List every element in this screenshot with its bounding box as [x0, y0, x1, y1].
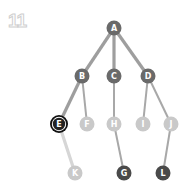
edge-a-b [82, 28, 114, 76]
edge-h-g [114, 124, 124, 173]
node-h[interactable]: H [107, 117, 122, 132]
node-f[interactable]: F [80, 117, 95, 132]
node-label: E [56, 120, 61, 129]
node-label: J [169, 120, 173, 129]
node-label: F [84, 120, 89, 129]
edge-a-d [114, 28, 148, 76]
node-b[interactable]: B [75, 69, 90, 84]
edges-layer [59, 28, 171, 173]
node-e[interactable]: E [50, 115, 68, 133]
node-label: A [111, 24, 118, 33]
node-label: D [145, 72, 152, 81]
node-k[interactable]: K [68, 166, 83, 181]
tree-diagram: ABCDEFHIJKGL [0, 0, 187, 189]
node-a[interactable]: A [107, 21, 122, 36]
node-d[interactable]: D [141, 69, 156, 84]
node-c[interactable]: C [107, 69, 122, 84]
node-label: G [121, 169, 128, 178]
node-g[interactable]: G [117, 166, 132, 181]
node-label: I [142, 120, 145, 129]
node-label: K [72, 169, 79, 178]
node-label: H [111, 120, 118, 129]
node-l[interactable]: L [156, 166, 171, 181]
node-j[interactable]: J [164, 117, 179, 132]
node-label: B [79, 72, 85, 81]
node-label: L [160, 169, 165, 178]
node-i[interactable]: I [136, 117, 151, 132]
node-label: C [111, 72, 117, 81]
edge-d-j [148, 76, 171, 124]
